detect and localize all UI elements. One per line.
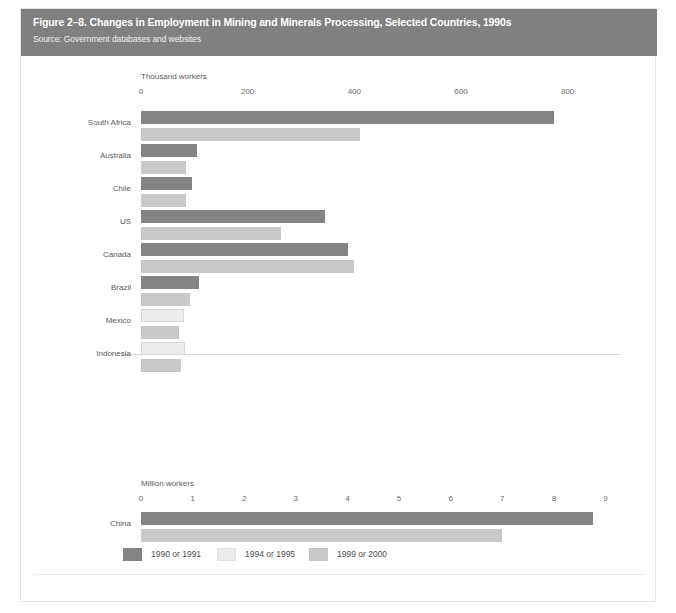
legend-label: 1990 or 1991 — [151, 549, 201, 559]
top-axis-tick-600: 600 — [446, 87, 476, 96]
category-label-mexico: Mexico — [45, 316, 131, 325]
bar-australia-s1 — [141, 144, 197, 157]
bottom-axis-tick-2: 2 — [229, 494, 259, 503]
bar-indonesia-s3 — [141, 359, 181, 372]
figure-container: Figure 2–8. Changes in Employment in Min… — [20, 8, 656, 602]
top-axis-tick-800: 800 — [553, 87, 583, 96]
bottom-axis-tick-6: 6 — [436, 494, 466, 503]
category-label-chile: Chile — [45, 184, 131, 193]
figure-source-note: Source: Government databases and website… — [33, 34, 643, 44]
bottom-axis-tick-4: 4 — [332, 494, 362, 503]
bottom-axis-tick-8: 8 — [539, 494, 569, 503]
chart-legend: 1990 or 19911994 or 19951999 or 2000 — [123, 547, 563, 567]
panel-divider — [121, 354, 621, 355]
category-label-indonesia: Indonesia — [45, 349, 131, 358]
top-axis-tick-200: 200 — [233, 87, 263, 96]
bar-china-s3 — [141, 529, 502, 542]
bar-south-africa-s3 — [141, 128, 360, 141]
bottom-axis-tick-0: 0 — [126, 494, 156, 503]
category-label-australia: Australia — [45, 151, 131, 160]
legend-swatch-icon-s2 — [217, 548, 236, 561]
top-axis-unit-label: Thousand workers — [141, 72, 207, 81]
bottom-axis-tick-7: 7 — [487, 494, 517, 503]
bar-mexico-s2 — [141, 309, 184, 322]
bar-south-africa-s1 — [141, 111, 554, 124]
top-axis-tick-0: 0 — [126, 87, 156, 96]
bar-chile-s3 — [141, 194, 186, 207]
bar-indonesia-s2 — [141, 342, 185, 355]
bar-chile-s1 — [141, 177, 192, 190]
figure-header-band: Figure 2–8. Changes in Employment in Min… — [21, 9, 657, 56]
bar-canada-s1 — [141, 243, 348, 256]
legend-divider — [33, 574, 645, 575]
top-axis-tick-400: 400 — [339, 87, 369, 96]
bar-us-s1 — [141, 210, 325, 223]
category-label-brazil: Brazil — [45, 283, 131, 292]
bar-china-s1 — [141, 512, 593, 525]
bar-brazil-s1 — [141, 276, 199, 289]
bottom-axis-tick-3: 3 — [281, 494, 311, 503]
bar-mexico-s3 — [141, 326, 179, 339]
category-label-canada: Canada — [45, 250, 131, 259]
category-label-china: China — [45, 519, 131, 528]
bar-brazil-s3 — [141, 293, 190, 306]
bottom-axis-tick-5: 5 — [384, 494, 414, 503]
bottom-axis-tick-1: 1 — [178, 494, 208, 503]
bar-canada-s3 — [141, 260, 354, 273]
bar-australia-s3 — [141, 161, 186, 174]
bar-us-s3 — [141, 227, 281, 240]
category-label-us: US — [45, 217, 131, 226]
legend-label: 1994 or 1995 — [245, 549, 295, 559]
category-label-south-africa: South Africa — [45, 118, 131, 127]
legend-swatch-icon-s1 — [123, 548, 142, 561]
legend-label: 1999 or 2000 — [337, 549, 387, 559]
bottom-axis-unit-label: Million workers — [141, 479, 194, 488]
bottom-axis-tick-9: 9 — [591, 494, 621, 503]
figure-title: Figure 2–8. Changes in Employment in Min… — [33, 16, 643, 28]
legend-swatch-icon-s3 — [309, 548, 328, 561]
